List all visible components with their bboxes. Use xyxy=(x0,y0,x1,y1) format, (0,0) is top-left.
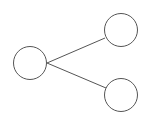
edge-root-to-bottom xyxy=(47,63,106,88)
tree-diagram xyxy=(0,0,152,116)
node-root xyxy=(14,47,47,80)
node-child-bottom xyxy=(105,79,138,112)
edge-root-to-top xyxy=(47,38,105,63)
node-child-top xyxy=(105,14,138,47)
